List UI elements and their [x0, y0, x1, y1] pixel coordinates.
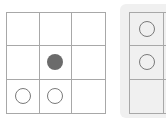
panel-cell-r2-c2[interactable]: [164, 46, 166, 79]
hollow-circle-piece-icon[interactable]: [47, 88, 63, 104]
side-piece-panel: [120, 4, 166, 118]
board-cell-r2-c3[interactable]: [72, 46, 105, 79]
panel-cell-r1-c1[interactable]: [130, 13, 164, 46]
panel-cell-r3-c2[interactable]: [164, 80, 166, 113]
hollow-circle-piece-icon[interactable]: [139, 21, 155, 37]
board-cell-r2-c1[interactable]: [7, 46, 40, 79]
hollow-circle-piece-icon[interactable]: [139, 54, 155, 70]
board-cell-r3-c1[interactable]: [7, 80, 40, 113]
hollow-circle-piece-icon[interactable]: [15, 88, 31, 104]
panel-cell-r2-c1[interactable]: [130, 46, 164, 79]
board-cell-r1-c1[interactable]: [7, 13, 40, 46]
board-cell-r2-c2[interactable]: [40, 46, 73, 79]
board-cell-r1-c3[interactable]: [72, 13, 105, 46]
filled-circle-piece-icon[interactable]: [47, 54, 63, 70]
board-cell-r3-c2[interactable]: [40, 80, 73, 113]
side-panel-grid: [129, 12, 166, 114]
board-cell-r1-c2[interactable]: [40, 13, 73, 46]
game-board: [6, 12, 106, 114]
panel-cell-r1-c2[interactable]: [164, 13, 166, 46]
board-cell-r3-c3[interactable]: [72, 80, 105, 113]
panel-cell-r3-c1[interactable]: [130, 80, 164, 113]
